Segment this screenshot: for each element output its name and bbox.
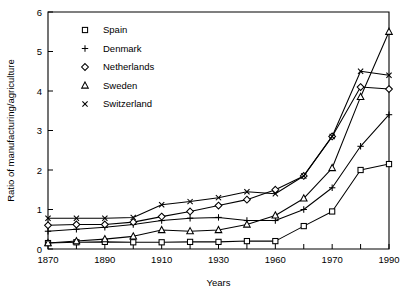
series-sweden [45,28,393,246]
y-tick-label: 0 [37,244,42,255]
marker-diamond [386,86,393,93]
x-tick-label: 1990 [378,254,399,265]
x-axis: 1870189019101930196019701990 [37,244,399,265]
marker-square [131,240,136,245]
x-tick-label: 1970 [322,254,343,265]
marker-triangle [272,212,279,218]
marker-diamond [244,196,251,203]
marker-triangle [82,82,89,88]
legend-label: Denmark [103,43,142,54]
marker-square [216,239,221,244]
chart-figure: 01234561870189019101930196019701990Years… [0,0,403,294]
marker-square [386,161,391,166]
marker-triangle [158,226,165,232]
marker-square [159,240,164,245]
marker-diamond [73,221,80,228]
legend-label: Sweden [103,80,137,91]
marker-diamond [45,222,52,229]
y-axis: 0123456 [37,7,53,255]
marker-diamond [215,202,222,209]
x-tick-label: 1870 [37,254,58,265]
marker-square [358,167,363,172]
marker-square [273,239,278,244]
legend-label: Netherlands [103,61,154,72]
marker-square [82,27,87,32]
y-tick-label: 3 [37,125,42,136]
marker-diamond [187,208,194,215]
chart-canvas: 01234561870189019101930196019701990Years… [0,0,403,294]
legend: SpainDenmarkNetherlandsSwedenSwitzerland [82,24,155,109]
series-denmark [45,112,392,235]
x-tick-label: 1960 [265,254,286,265]
series-netherlands [45,84,393,229]
marker-triangle [357,93,364,99]
x-tick-label: 1930 [208,254,229,265]
x-tick-label: 1890 [94,254,115,265]
series-line [48,71,389,218]
plot-frame [48,12,389,249]
marker-triangle [329,164,336,170]
y-tick-label: 6 [37,7,42,18]
y-tick-label: 1 [37,204,42,215]
marker-square [330,209,335,214]
series-switzerland [45,69,391,221]
marker-square [244,239,249,244]
legend-label: Switzerland [103,98,152,109]
axis-box [48,12,389,249]
series-line [48,32,389,243]
marker-diamond [158,213,165,220]
marker-square [301,223,306,228]
x-axis-title: Years [207,277,231,288]
marker-square [187,239,192,244]
marker-diamond [357,84,364,91]
y-tick-label: 2 [37,165,42,176]
y-tick-label: 4 [37,86,42,97]
x-tick-label: 1910 [151,254,172,265]
legend-label: Spain [103,24,127,35]
marker-triangle [386,28,393,34]
marker-diamond [82,64,89,71]
y-axis-title: Ratio of manufacturing/agriculture [5,59,16,202]
series-line [48,115,389,232]
y-tick-label: 5 [37,46,42,57]
